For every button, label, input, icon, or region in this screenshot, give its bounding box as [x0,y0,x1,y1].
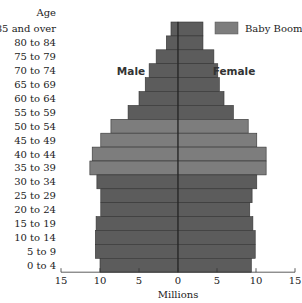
y-tick-label: 25 to 29 [14,190,56,201]
y-tick-label: 50 to 54 [14,121,56,132]
y-tick-label: 85 and over [0,23,56,34]
y-tick-label: 30 to 34 [14,176,56,187]
bar-female-15-to-19 [178,217,253,231]
bar-female-55-to-59 [178,105,233,119]
bar-male-75-to-79 [156,50,178,64]
x-tick-label: 5 [214,275,220,286]
bar-male-35-to-39 [90,161,178,175]
x-tick-label: 15 [55,275,68,286]
bar-male-55-to-59 [128,105,178,119]
bar-male-20-to-24 [101,203,178,217]
bar-female-30-to-34 [178,175,257,189]
bar-female-60-to-64 [178,92,224,106]
bar-male-5-to-9 [95,244,178,258]
bar-male-10-to-14 [95,231,178,245]
bar-male-15-to-19 [96,217,178,231]
bar-male-40-to-44 [92,147,178,161]
bar-female-85-and-over [178,22,203,36]
annotation-male: Male [117,65,145,77]
bar-male-80-to-84 [166,36,178,50]
bars-group [90,22,266,272]
population-pyramid-chart: Age 85 and over80 to 8475 to 7970 to 746… [0,0,302,303]
bar-male-50-to-54 [111,119,178,133]
bar-male-60-to-64 [139,92,178,106]
y-tick-label: 15 to 19 [14,218,56,229]
legend-swatch-baby-boom [215,22,238,34]
x-axis-title: Millions [158,289,199,300]
bar-male-30-to-34 [97,175,178,189]
x-tick-label: 10 [94,275,107,286]
y-tick-label: 45 to 49 [14,135,56,146]
y-tick-label: 65 to 69 [14,79,56,90]
y-tick-label: 20 to 24 [14,204,56,215]
y-tick-label: 0 to 4 [27,260,56,271]
bar-female-0-to-4 [178,258,251,272]
bar-female-10-to-14 [178,231,255,245]
bar-female-25-to-29 [178,189,252,203]
bar-male-25-to-29 [101,189,178,203]
y-tick-label: 75 to 79 [14,51,56,62]
y-axis-title: Age [35,7,56,18]
y-tick-label: 60 to 64 [14,93,56,104]
legend: Baby Boom [215,22,302,34]
y-tick-label: 10 to 14 [14,232,56,243]
x-tick-label: 0 [175,275,181,286]
bar-male-70-to-74 [149,64,178,78]
bar-female-80-to-84 [178,36,203,50]
x-tick-label: 10 [250,275,263,286]
y-tick-label: 40 to 44 [14,149,56,160]
y-tick-label: 35 to 39 [14,162,56,173]
y-tick-label: 55 to 59 [14,107,56,118]
bar-female-50-to-54 [178,119,248,133]
bar-female-5-to-9 [178,244,255,258]
y-tick-label: 80 to 84 [14,37,56,48]
bar-female-65-to-69 [178,78,219,92]
bar-male-45-to-49 [101,133,178,147]
bar-female-20-to-24 [178,203,250,217]
bar-female-40-to-44 [178,147,266,161]
y-tick-label: 5 to 9 [27,246,56,257]
y-tick-labels: 85 and over80 to 8475 to 7970 to 7465 to… [0,23,56,270]
y-tick-label: 70 to 74 [14,65,56,76]
legend-label-baby-boom: Baby Boom [245,23,302,34]
bar-male-65-to-69 [145,78,178,92]
bar-male-85-and-over [171,22,178,36]
bar-female-35-to-39 [178,161,266,175]
x-axis: 15105051015 [55,268,302,286]
x-tick-label: 15 [289,275,302,286]
bar-female-45-to-49 [178,133,257,147]
annotation-female: Female [213,65,256,77]
bar-female-75-to-79 [178,50,214,64]
x-tick-label: 5 [136,275,142,286]
